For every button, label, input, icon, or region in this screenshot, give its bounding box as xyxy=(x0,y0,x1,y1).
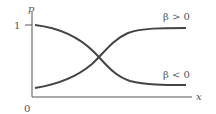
origin-label: 0 xyxy=(24,103,30,114)
y-axis-label: p xyxy=(28,3,35,14)
legend-beta-positive: β > 0 xyxy=(163,11,190,22)
legend-beta-negative: β < 0 xyxy=(163,69,190,80)
sigmoid-chart: p 1 0 x β > 0 β < 0 xyxy=(0,0,216,114)
y-tick-label-1: 1 xyxy=(14,20,20,31)
x-axis-label: x xyxy=(196,91,202,102)
